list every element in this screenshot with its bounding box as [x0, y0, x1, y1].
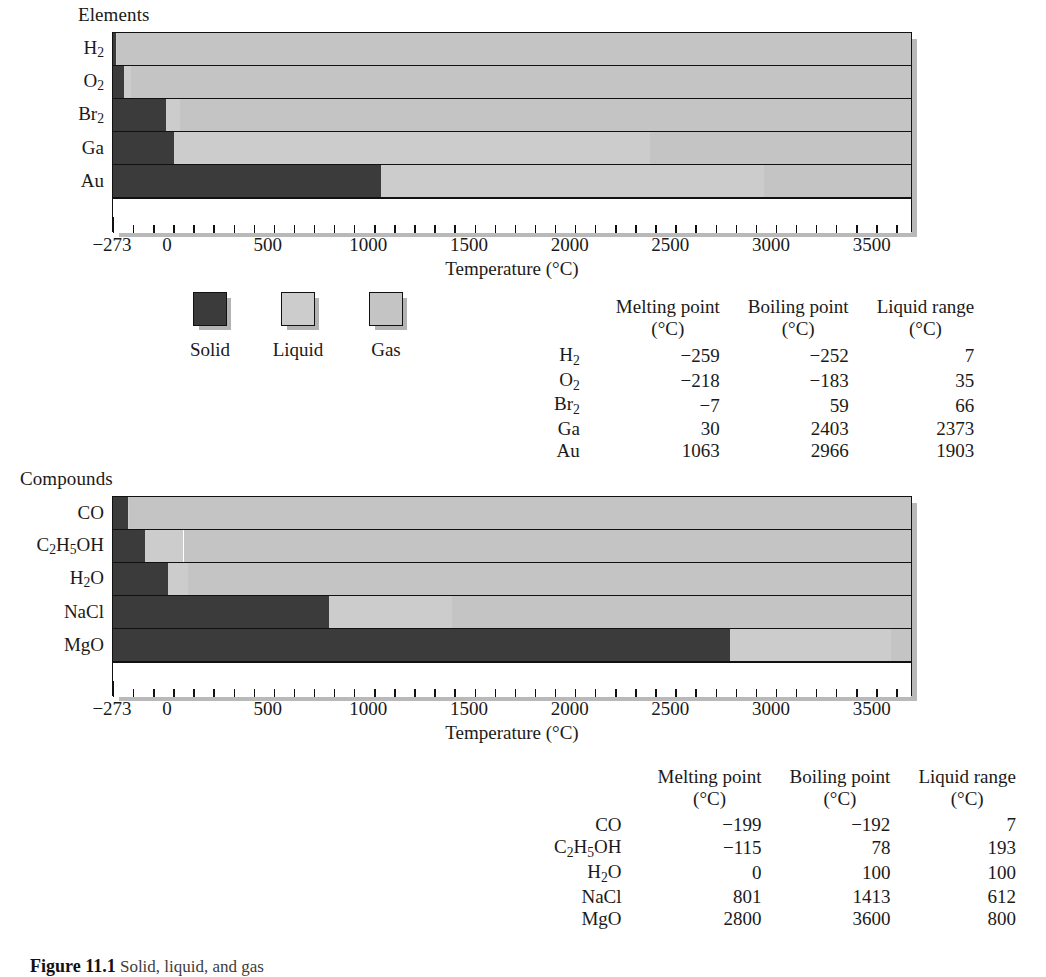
table-cell-substance: CO — [540, 814, 644, 836]
axis-tick-label: 500 — [253, 234, 282, 256]
table-row: O2−218−18335 — [540, 369, 988, 394]
axis-tick-minor — [796, 689, 797, 697]
table-cell-liquid-range: 1903 — [863, 440, 989, 462]
table-cell-boiling-point: 1413 — [776, 886, 905, 908]
phase-segment-gas — [184, 530, 911, 562]
elements-axis-ticklabels: −2730500100015002000250030003500 — [112, 234, 912, 260]
axis-tick-minor — [535, 689, 536, 697]
axis-tick-minor — [475, 689, 476, 697]
axis-tick-label: −273 — [92, 698, 131, 720]
elements-row-labels: H2O2Br2GaAu — [0, 32, 104, 197]
axis-tick-minor — [635, 225, 636, 233]
category-label: O2 — [83, 69, 104, 94]
table-corner-unit — [540, 788, 644, 814]
table-cell-boiling-point: 78 — [776, 836, 905, 861]
axis-tick-minor — [213, 225, 214, 233]
table-cell-liquid-range: 2373 — [863, 418, 989, 440]
elements-plot-area — [112, 32, 912, 232]
phase-segment-liquid — [145, 530, 184, 562]
table-corner-header — [540, 766, 644, 788]
axis-tick-minor — [334, 689, 335, 697]
phase-segment-solid — [113, 66, 124, 98]
phase-segment-solid — [113, 596, 329, 628]
axis-tick-minor — [414, 689, 415, 697]
axis-tick-minor — [153, 225, 154, 233]
figure-caption-text: Solid, liquid, and gas — [120, 957, 264, 976]
table-cell-liquid-range: 800 — [904, 908, 1030, 930]
phase-segment-gas — [188, 563, 911, 595]
bar-row — [113, 33, 911, 66]
axis-tick-minor — [896, 689, 897, 697]
table-row: NaCl8011413612 — [540, 886, 1030, 908]
table-cell-liquid-range: 7 — [904, 814, 1030, 836]
axis-tick-label: 3500 — [853, 234, 891, 256]
axis-tick-minor — [294, 689, 295, 697]
phase-segment-solid — [113, 132, 174, 164]
table-column-unit: (°C) — [602, 318, 734, 344]
axis-tick-minor — [615, 689, 616, 697]
axis-tick-minor — [234, 225, 235, 233]
axis-tick-minor — [254, 225, 255, 233]
table-column-header: Liquid range — [863, 296, 989, 318]
axis-tick-minor — [796, 225, 797, 233]
table-cell-substance: NaCl — [540, 886, 644, 908]
category-label: CO — [78, 502, 104, 524]
category-label: Ga — [82, 137, 104, 159]
table-cell-substance: O2 — [540, 369, 602, 394]
axis-tick-minor — [756, 225, 757, 233]
axis-tick-minor — [555, 225, 556, 233]
axis-tick-minor — [394, 689, 395, 697]
table-cell-boiling-point: 2966 — [734, 440, 863, 462]
axis-tick-minor — [314, 689, 315, 697]
axis-tick-minor — [695, 225, 696, 233]
axis-tick-minor — [695, 689, 696, 697]
table-row: MgO28003600800 — [540, 908, 1030, 930]
legend-label-gas: Gas — [351, 339, 421, 361]
axis-tick-minor — [173, 689, 174, 697]
axis-tick-minor — [575, 689, 576, 697]
table-cell-melting-point: 1063 — [602, 440, 734, 462]
table-cell-melting-point: −259 — [602, 344, 734, 369]
compounds-data-table: Melting pointBoiling pointLiquid range(°… — [540, 766, 1030, 930]
axis-tick-label: 500 — [253, 698, 282, 720]
figure-caption: Figure 11.1 Solid, liquid, and gas — [30, 956, 264, 977]
table-cell-melting-point: −115 — [644, 836, 776, 861]
bar-row — [113, 132, 911, 165]
phase-segment-liquid — [730, 629, 891, 661]
phase-segment-solid — [113, 530, 145, 562]
phase-segment-gas — [764, 165, 911, 197]
table-cell-substance: Au — [540, 440, 602, 462]
axis-tick-minor — [334, 225, 335, 233]
axis-tick-label: 0 — [162, 698, 172, 720]
table-cell-substance: H2O — [540, 861, 644, 886]
axis-tick-minor — [836, 689, 837, 697]
axis-tick-minor — [575, 225, 576, 233]
axis-tick-label: 1000 — [349, 698, 387, 720]
phase-segment-liquid — [174, 132, 651, 164]
axis-tick-minor — [414, 225, 415, 233]
table-cell-substance: MgO — [540, 908, 644, 930]
axis-strip — [113, 198, 911, 233]
axis-tick-minor — [615, 225, 616, 233]
axis-tick-minor — [595, 225, 596, 233]
axis-tick-minor — [595, 689, 596, 697]
bar-row — [113, 530, 911, 563]
legend-item-solid: Solid — [175, 292, 245, 361]
axis-tick-minor — [515, 225, 516, 233]
liquid-swatch — [281, 292, 315, 326]
legend-item-liquid: Liquid — [263, 292, 333, 361]
legend-label-solid: Solid — [175, 339, 245, 361]
axis-tick-minor — [254, 689, 255, 697]
axis-tick-minor — [193, 689, 194, 697]
axis-tick-major — [113, 681, 114, 697]
category-label: Br2 — [78, 102, 104, 127]
compounds-panel: Compounds COC2H5OHH2ONaClMgO −2730500100… — [0, 468, 1046, 758]
axis-tick-minor — [374, 225, 375, 233]
table-column-unit: (°C) — [776, 788, 905, 814]
phase-segment-gas — [117, 33, 911, 65]
axis-tick-minor — [675, 689, 676, 697]
table-cell-melting-point: 2800 — [644, 908, 776, 930]
table-column-header: Melting point — [644, 766, 776, 788]
table-cell-boiling-point: 3600 — [776, 908, 905, 930]
table-column-header: Liquid range — [904, 766, 1030, 788]
